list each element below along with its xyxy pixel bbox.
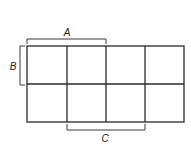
label-c: C — [101, 133, 109, 144]
kmap-grid — [27, 46, 184, 122]
bracket-c — [67, 124, 145, 130]
bracket-b — [20, 46, 25, 85]
label-b: B — [10, 61, 17, 72]
label-a: A — [63, 27, 71, 38]
karnaugh-map-diagram: A B C — [0, 0, 191, 156]
bracket-a — [27, 39, 106, 44]
